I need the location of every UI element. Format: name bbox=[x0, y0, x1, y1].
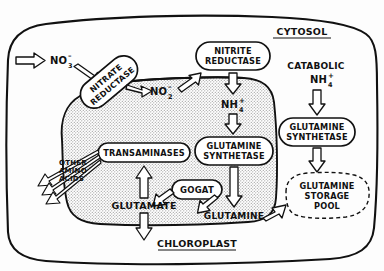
enzyme-glutamine-synthetase-cytosol: GLUTAMINE SYNTHETASE bbox=[279, 118, 355, 146]
storage-pool-line2: STORAGE bbox=[305, 191, 350, 201]
glutamine-storage-pool: GLUTAMINE STORAGE POOL bbox=[286, 172, 369, 218]
other-amino-line2: AMINO bbox=[59, 167, 87, 175]
other-amino-line1: OTHER bbox=[59, 159, 87, 167]
metabolite-glutamate: GLUTAMATE bbox=[111, 200, 176, 211]
nitrite-text: NO bbox=[150, 86, 167, 97]
chloroplast-text: CHLOROPLAST bbox=[157, 238, 237, 249]
catabolic-ammonium-superscript: + bbox=[328, 72, 334, 80]
ammonium-subscript: 4 bbox=[239, 106, 244, 114]
label-other-amino-acids: OTHER AMINO ACIDS bbox=[59, 159, 87, 183]
storage-pool-line3: POOL bbox=[314, 201, 340, 211]
metabolite-glutamine-chloroplast: GLUTAMINE bbox=[204, 211, 264, 221]
ammonium-superscript: + bbox=[239, 97, 245, 105]
diagram-canvas: CYTOSOL CHLOROPLAST NO 3 – NITRATE REDUC… bbox=[0, 0, 384, 271]
enzyme-transaminases: TRANSAMINASES bbox=[98, 143, 190, 162]
enzyme-nitrite-reductase: NITRITE REDUCTASE bbox=[196, 42, 270, 70]
gs-cytosol-line2: SYNTHETASE bbox=[286, 132, 347, 142]
ammonium-text: NH bbox=[221, 99, 238, 110]
gs-chloroplast-line2: SYNTHETASE bbox=[203, 151, 264, 161]
label-cytosol: CYTOSOL bbox=[273, 26, 331, 38]
transaminases-text: TRANSAMINASES bbox=[103, 148, 185, 158]
label-chloroplast: CHLOROPLAST bbox=[157, 238, 237, 250]
gs-cytosol-line1: GLUTAMINE bbox=[289, 122, 344, 132]
nitrate-text: NO bbox=[50, 55, 67, 66]
nitrite-superscript: – bbox=[168, 83, 172, 91]
catabolic-line1: CATABOLIC bbox=[287, 61, 344, 71]
nitrite-reductase-line1: NITRITE bbox=[214, 46, 251, 56]
enzyme-glutamine-synthetase-chloroplast: GLUTAMINE SYNTHETASE bbox=[195, 137, 273, 165]
nitrate-superscript: – bbox=[68, 52, 72, 60]
nitrite-subscript: 2 bbox=[168, 93, 173, 101]
nitrate-subscript: 3 bbox=[68, 62, 73, 70]
other-amino-line3: ACIDS bbox=[59, 175, 84, 183]
cytosol-text: CYTOSOL bbox=[277, 26, 328, 37]
catabolic-ammonium-subscript: 4 bbox=[328, 81, 333, 89]
nitrite-reductase-line2: REDUCTASE bbox=[205, 56, 261, 66]
catabolic-ammonium-text: NH bbox=[310, 74, 327, 85]
gs-chloroplast-line1: GLUTAMINE bbox=[206, 141, 261, 151]
storage-pool-line1: GLUTAMINE bbox=[299, 181, 354, 191]
gogat-text: GOGAT bbox=[180, 185, 214, 195]
